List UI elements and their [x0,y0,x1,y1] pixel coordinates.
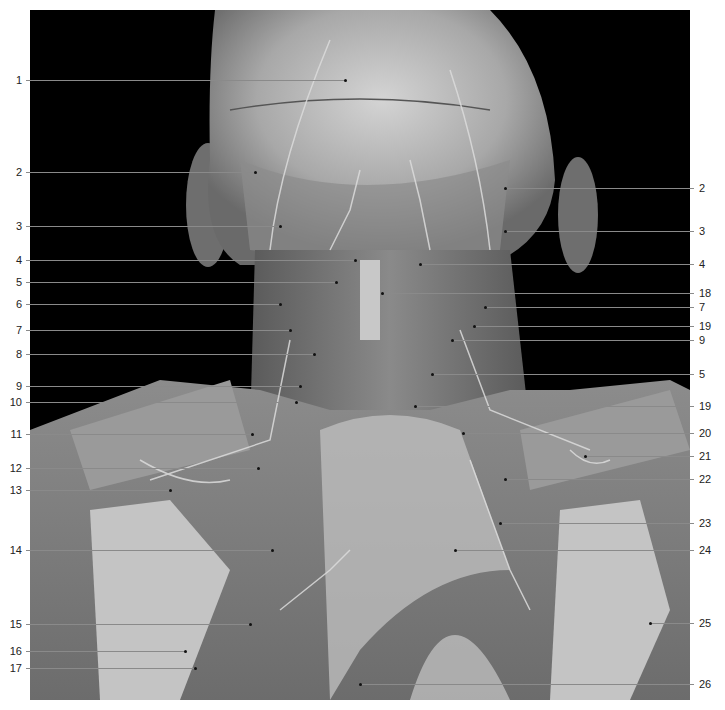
figure-label-right: 2 [699,182,705,194]
leader-endpoint [649,622,652,625]
figure-label-right: 3 [699,225,705,237]
leader-endpoint [169,489,172,492]
leader-line [26,402,296,403]
leader-endpoint [289,329,292,332]
leader-line [26,260,355,261]
leader-line [505,188,694,189]
leader-endpoint [184,650,187,653]
figure-label-left: 9 [0,380,22,392]
leader-line [415,406,694,407]
figure-label-right: 24 [699,544,711,556]
leader-endpoint [359,683,362,686]
figure-label-left: 12 [0,462,22,474]
leader-line [26,624,250,625]
leader-line [26,668,195,669]
figure-label-right: 20 [699,427,711,439]
figure-label-right: 21 [699,450,711,462]
leader-endpoint [194,667,197,670]
figure-label-left: 7 [0,324,22,336]
leader-line [26,330,290,331]
leader-line [485,307,694,308]
leader-endpoint [462,432,465,435]
leader-endpoint [504,230,507,233]
figure-label-right: 25 [699,617,711,629]
figure-label-left: 2 [0,166,22,178]
leader-line [26,651,185,652]
figure-label-left: 17 [0,662,22,674]
leader-line [26,282,336,283]
figure-label-right: 19 [699,400,711,412]
leader-endpoint [335,281,338,284]
leader-line [505,479,694,480]
leader-line [26,490,170,491]
figure-label-left: 16 [0,645,22,657]
leader-line [382,293,694,294]
figure-label-left: 6 [0,298,22,310]
leader-endpoint [504,478,507,481]
leader-line [452,340,694,341]
figure-label-right: 4 [699,258,705,270]
leader-endpoint [473,325,476,328]
leader-endpoint [279,225,282,228]
leader-line [26,172,255,173]
leader-line [650,623,694,624]
figure-label-right: 22 [699,473,711,485]
leader-endpoint [381,292,384,295]
leader-endpoint [414,405,417,408]
leader-line [26,304,280,305]
leader-endpoint [249,623,252,626]
leader-line [26,434,252,435]
leader-line [505,231,694,232]
figure-label-left: 15 [0,618,22,630]
leader-endpoint [299,385,302,388]
dissection-photo [30,10,690,700]
leader-endpoint [499,522,502,525]
leader-line [474,326,694,327]
leader-line [26,550,272,551]
leader-line [360,684,694,685]
leader-line [26,468,258,469]
leader-line [463,433,694,434]
figure-label-left: 5 [0,276,22,288]
leader-line [432,374,694,375]
leader-endpoint [271,549,274,552]
leader-endpoint [454,549,457,552]
figure-label-left: 13 [0,484,22,496]
leader-endpoint [419,263,422,266]
figure-label-right: 19 [699,320,711,332]
figure-label-right: 9 [699,334,705,346]
leader-endpoint [295,401,298,404]
figure-label-right: 5 [699,368,705,380]
leader-line [26,80,345,81]
leader-line [585,456,694,457]
leader-line [26,386,300,387]
figure-label-right: 26 [699,678,711,690]
figure-label-left: 10 [0,396,22,408]
leader-endpoint [257,467,260,470]
leader-line [26,226,280,227]
leader-endpoint [451,339,454,342]
figure-label-left: 8 [0,348,22,360]
figure-label-left: 4 [0,254,22,266]
figure-label-left: 1 [0,74,22,86]
leader-endpoint [584,455,587,458]
leader-line [500,523,694,524]
figure-label-left: 3 [0,220,22,232]
leader-endpoint [484,306,487,309]
figure-label-right: 7 [699,301,705,313]
figure-label-right: 23 [699,517,711,529]
leader-endpoint [344,79,347,82]
figure-label-right: 18 [699,287,711,299]
leader-endpoint [251,433,254,436]
figure-label-left: 14 [0,544,22,556]
anatomy-illustration [30,10,690,700]
leader-line [455,550,694,551]
leader-endpoint [354,259,357,262]
leader-endpoint [504,187,507,190]
leader-line [26,354,314,355]
leader-endpoint [279,303,282,306]
leader-endpoint [313,353,316,356]
leader-endpoint [431,373,434,376]
figure-label-left: 11 [0,428,22,440]
leader-line [420,264,694,265]
